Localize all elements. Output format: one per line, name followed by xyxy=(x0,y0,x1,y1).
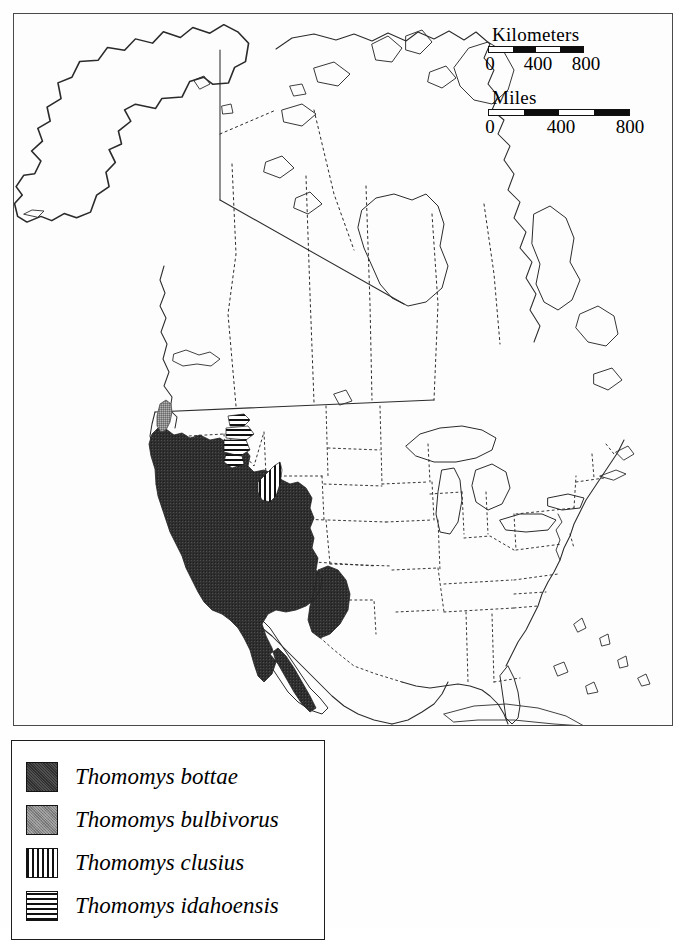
scale-tick-label: 0 xyxy=(485,116,495,138)
scale-segment xyxy=(536,47,560,52)
bahamas-isle-6 xyxy=(586,682,598,694)
legend-swatch-solid-gray xyxy=(26,805,58,835)
bahamas-isle-4 xyxy=(638,674,650,686)
scale-tick-label: 800 xyxy=(616,116,645,138)
scale-bars: Kilometers 0 400 800 Miles 0 xyxy=(478,24,648,150)
legend-item-thomomys-idahoensis: Thomomys idahoensis xyxy=(26,884,324,927)
bahamas-isle-3 xyxy=(618,656,628,668)
state-border-nd-mn xyxy=(380,406,382,484)
canada-border-diagonal xyxy=(220,200,404,304)
range-thomomys-bulbivorus xyxy=(157,400,172,432)
newfoundland xyxy=(576,306,618,346)
bahamas-isle-1 xyxy=(574,618,586,632)
state-border-sc-ga xyxy=(514,606,538,608)
scale-kilometers-ticks: 0 400 800 xyxy=(478,53,594,75)
scale-miles-ticks: 0 400 800 xyxy=(478,116,640,138)
legend-label: Thomomys clusius xyxy=(75,850,244,876)
state-border-wi-il xyxy=(430,492,462,494)
lake-erie xyxy=(500,514,556,532)
lake-huron xyxy=(472,464,510,510)
state-border-sd-ne xyxy=(324,484,382,486)
state-border-pa-md-va xyxy=(516,544,562,550)
scale-tick-label: 400 xyxy=(547,116,576,138)
province-border-sk-mb xyxy=(366,186,372,400)
arctic-island-e xyxy=(264,156,294,178)
bahamas-isle-2 xyxy=(600,634,610,646)
scale-tick-label: 0 xyxy=(485,53,495,75)
state-border-ar-la xyxy=(396,610,438,612)
long-island xyxy=(600,470,626,480)
state-border-mn-wi xyxy=(428,444,430,482)
scale-segment xyxy=(560,47,584,52)
legend-swatch-solid-dark xyxy=(26,762,58,792)
state-border-ky-oh-wv xyxy=(464,536,514,550)
labrador-coast xyxy=(532,206,580,310)
legend-item-thomomys-bottae: Thomomys bottae xyxy=(26,755,324,798)
state-border-ky-tn xyxy=(444,580,512,584)
scale-miles: Miles 0 400 800 xyxy=(478,87,648,138)
state-border-ne-ks xyxy=(328,520,386,522)
state-border-wy-sd-ne xyxy=(322,476,324,520)
scale-miles-bar xyxy=(488,109,630,116)
state-border-ny-ne xyxy=(574,476,576,508)
map-legend: Thomomys bottae Thomomys bulbivorus Thom… xyxy=(11,740,325,940)
state-border-oh-pa xyxy=(514,514,516,550)
range-thomomys-bottae xyxy=(149,428,350,712)
scale-kilometers: Kilometers 0 400 800 xyxy=(478,24,648,75)
alaska-small-isle-c xyxy=(290,84,306,96)
alaska-small-isle-b xyxy=(222,104,233,114)
state-border-ar-ms-tn xyxy=(438,568,444,612)
gulf-of-mexico-coast xyxy=(392,682,448,724)
state-border-ga-fl xyxy=(494,678,520,682)
state-border-al-ga xyxy=(492,614,494,682)
province-border-mb-on xyxy=(432,214,438,400)
province-border-nwt-nu xyxy=(314,110,354,250)
lake-ontario xyxy=(548,494,584,510)
province-border-ab-sk xyxy=(306,176,314,402)
nova-scotia xyxy=(594,368,622,390)
bahamas-isle-5 xyxy=(554,662,568,676)
lake-michigan xyxy=(436,468,462,534)
state-border-ia-mo xyxy=(386,520,432,522)
state-border-co-ks xyxy=(326,520,330,564)
arctic-island-d xyxy=(282,104,316,126)
province-border-bc-ab xyxy=(228,164,236,406)
legend-item-thomomys-clusius: Thomomys clusius xyxy=(26,841,324,884)
state-border-ms-al xyxy=(466,612,468,682)
kodiak-island xyxy=(173,350,220,366)
alaska-coastline xyxy=(15,25,249,222)
scale-tick-label: 400 xyxy=(524,53,553,75)
scale-segment xyxy=(559,110,594,115)
legend-item-thomomys-bulbivorus: Thomomys bulbivorus xyxy=(26,798,324,841)
province-border-on-qc xyxy=(484,204,500,344)
arctic-island-b xyxy=(406,30,432,54)
florida-peninsula xyxy=(500,666,520,724)
lake-superior xyxy=(406,426,496,462)
state-border-ia-il xyxy=(432,482,434,520)
legend-label: Thomomys bulbivorus xyxy=(75,807,279,833)
scale-miles-title: Miles xyxy=(478,87,648,108)
arctic-island-a xyxy=(372,36,402,62)
state-border-pa-ny xyxy=(516,508,574,514)
scale-segment xyxy=(489,47,513,52)
legend-label: Thomomys bottae xyxy=(75,764,238,790)
arctic-island-g xyxy=(428,66,456,88)
state-border-me xyxy=(606,444,614,454)
state-border-tx-nm-south xyxy=(316,634,402,682)
scale-segment xyxy=(489,110,524,115)
arctic-island-f xyxy=(294,192,322,214)
scale-segment xyxy=(594,110,629,115)
usa-gulf-coast xyxy=(402,682,508,724)
arctic-island-c xyxy=(314,62,350,86)
scale-kilometers-bar xyxy=(488,46,584,53)
state-border-ks-ok xyxy=(330,564,392,566)
scale-segment xyxy=(513,47,537,52)
state-border-mo-ar xyxy=(392,568,438,570)
state-border-nd-sd xyxy=(328,448,380,450)
state-border-nj-de xyxy=(570,534,574,548)
scale-segment xyxy=(524,110,559,115)
legend-swatch-horizontal-hatch xyxy=(26,891,58,921)
scale-kilometers-title: Kilometers xyxy=(478,24,648,45)
chesapeake-bay xyxy=(556,514,562,560)
